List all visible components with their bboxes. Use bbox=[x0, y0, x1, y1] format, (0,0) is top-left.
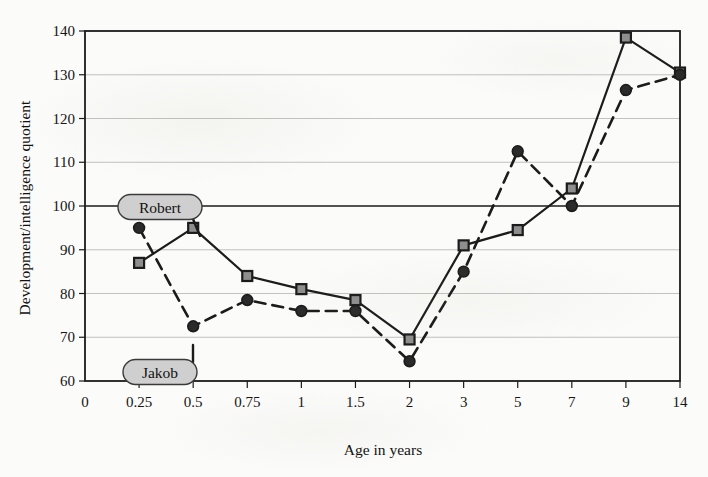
data-point-jakob bbox=[296, 306, 307, 317]
x-axis-ticks: 00.250.50.7511.52357914 bbox=[81, 381, 688, 410]
chart-figure: 60708090100110120130140 00.250.50.7511.5… bbox=[0, 0, 708, 477]
data-point-robert bbox=[567, 184, 577, 194]
data-point-jakob bbox=[566, 201, 577, 212]
data-point-robert bbox=[513, 225, 523, 235]
y-axis-title: Development/intelligence quotient bbox=[16, 100, 33, 315]
y-tick-label: 120 bbox=[53, 111, 76, 127]
data-point-jakob bbox=[458, 266, 469, 277]
data-point-robert bbox=[621, 33, 631, 43]
series-layer bbox=[139, 38, 680, 362]
y-tick-label: 130 bbox=[53, 67, 76, 83]
x-tick-label: 0.5 bbox=[184, 394, 203, 410]
x-tick-label: 1.5 bbox=[346, 394, 365, 410]
x-tick-label: 7 bbox=[568, 394, 576, 410]
x-axis-title: Age in years bbox=[344, 441, 422, 458]
data-point-robert bbox=[134, 258, 144, 268]
data-point-robert bbox=[296, 284, 306, 294]
line-chart: 60708090100110120130140 00.250.50.7511.5… bbox=[0, 0, 708, 477]
data-point-jakob bbox=[188, 321, 199, 332]
data-point-jakob bbox=[242, 295, 253, 306]
y-axis-ticks: 60708090100110120130140 bbox=[53, 23, 86, 389]
y-tick-label: 110 bbox=[53, 154, 75, 170]
data-point-jakob bbox=[134, 222, 145, 233]
x-tick-label: 3 bbox=[460, 394, 468, 410]
y-tick-label: 80 bbox=[60, 286, 75, 302]
data-point-jakob bbox=[512, 146, 523, 157]
data-point-jakob bbox=[675, 69, 686, 80]
data-point-robert bbox=[459, 240, 469, 250]
data-point-jakob bbox=[621, 85, 632, 96]
callout-jakob: Jakob bbox=[123, 345, 197, 385]
x-tick-label: 1 bbox=[298, 394, 306, 410]
series-line-jakob bbox=[139, 75, 680, 362]
y-tick-label: 70 bbox=[60, 329, 75, 345]
x-tick-label: 14 bbox=[673, 394, 689, 410]
callout-label: Robert bbox=[139, 199, 182, 216]
data-point-robert bbox=[350, 295, 360, 305]
x-tick-label: 5 bbox=[514, 394, 522, 410]
y-tick-label: 100 bbox=[53, 198, 76, 214]
y-tick-label: 140 bbox=[53, 23, 76, 39]
x-tick-label: 0.25 bbox=[126, 394, 152, 410]
y-tick-label: 60 bbox=[60, 373, 75, 389]
x-tick-label: 0 bbox=[81, 394, 89, 410]
x-tick-label: 2 bbox=[406, 394, 414, 410]
x-tick-label: 9 bbox=[622, 394, 630, 410]
y-tick-label: 90 bbox=[60, 242, 75, 258]
series-line-robert bbox=[139, 38, 680, 340]
data-point-jakob bbox=[350, 306, 361, 317]
data-point-robert bbox=[405, 334, 415, 344]
markers-layer bbox=[134, 33, 686, 367]
callout-label: Jakob bbox=[142, 364, 178, 381]
x-tick-label: 0.75 bbox=[234, 394, 260, 410]
data-point-robert bbox=[242, 271, 252, 281]
data-point-jakob bbox=[404, 356, 415, 367]
